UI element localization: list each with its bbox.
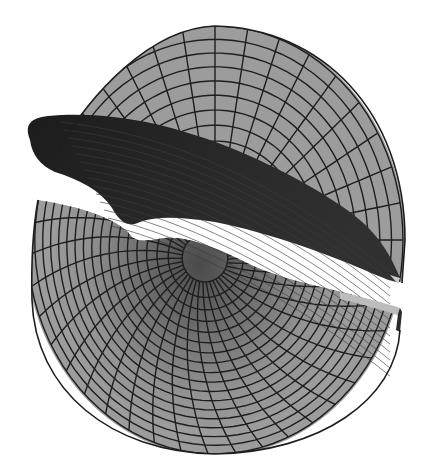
surface-mesh-svg: [0, 0, 430, 476]
surface-figure: [0, 0, 430, 476]
